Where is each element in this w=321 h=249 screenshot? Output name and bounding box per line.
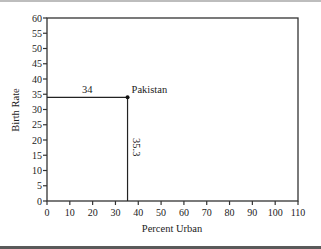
scatter-chart: 051015202530354045505560 010203040506070… (0, 0, 321, 249)
vertical-guide-value: 35.3 (131, 138, 142, 156)
x-tick-label: 10 (65, 207, 75, 218)
y-axis-ticks: 051015202530354045505560 (32, 13, 47, 207)
point-label: Pakistan (132, 84, 168, 95)
y-tick-label: 55 (32, 28, 42, 39)
y-tick-label: 35 (32, 89, 42, 100)
y-tick-label: 20 (32, 135, 42, 146)
y-tick-label: 15 (32, 150, 42, 161)
plot-frame (47, 18, 298, 201)
y-tick-label: 25 (32, 119, 42, 130)
x-tick-label: 60 (179, 207, 189, 218)
y-tick-label: 30 (32, 104, 42, 115)
x-tick-label: 100 (268, 207, 283, 218)
y-tick-label: 10 (32, 165, 42, 176)
x-axis-ticks: 0102030405060708090100110 (45, 201, 306, 218)
x-axis-label: Percent Urban (142, 223, 203, 234)
x-tick-label: 110 (291, 207, 306, 218)
x-tick-label: 20 (88, 207, 98, 218)
x-tick-label: 0 (45, 207, 50, 218)
y-axis-label: Birth Rate (10, 88, 21, 132)
x-tick-label: 90 (247, 207, 257, 218)
x-tick-label: 40 (133, 207, 143, 218)
y-tick-label: 60 (32, 13, 42, 24)
y-tick-label: 45 (32, 58, 42, 69)
y-tick-label: 40 (32, 74, 42, 85)
y-tick-label: 0 (37, 196, 42, 207)
x-tick-label: 50 (156, 207, 166, 218)
x-tick-label: 80 (225, 207, 235, 218)
horizontal-guide-value: 34 (82, 84, 93, 95)
x-tick-label: 70 (202, 207, 212, 218)
y-tick-label: 50 (32, 43, 42, 54)
y-tick-label: 5 (37, 180, 42, 191)
data-point-pakistan (126, 95, 130, 99)
x-tick-label: 30 (110, 207, 120, 218)
